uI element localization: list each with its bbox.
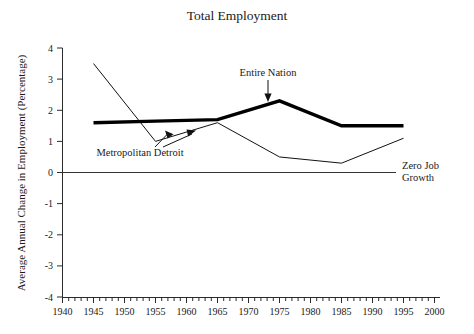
x-tick-label: 2000 xyxy=(425,306,445,317)
total-employment-line-chart: Total Employment Average Annual Change i… xyxy=(0,0,474,334)
y-tick-label: -3 xyxy=(45,260,53,271)
y-tick-label: 4 xyxy=(48,43,53,54)
y-tick-label: -2 xyxy=(45,229,53,240)
annotation-zero-job-growth: Zero Job Growth xyxy=(402,160,439,183)
y-tick-label: 2 xyxy=(48,105,53,116)
x-tick-label: 1970 xyxy=(239,306,259,317)
x-tick-label: 1955 xyxy=(146,306,166,317)
y-tick-label: -1 xyxy=(45,198,53,209)
annotation-label-entire-nation: Entire Nation xyxy=(240,67,298,78)
x-tick-label: 1940 xyxy=(53,306,73,317)
x-tick-label: 1945 xyxy=(84,306,104,317)
x-tick-label: 1985 xyxy=(332,306,352,317)
x-tick-label: 1960 xyxy=(177,306,197,317)
x-tick-label: 1965 xyxy=(208,306,228,317)
x-tick-label: 1980 xyxy=(301,306,321,317)
annotation-label-zero-job-growth-line1: Zero Job xyxy=(402,160,439,171)
annotation-label-zero-job-growth-line2: Growth xyxy=(402,172,435,183)
x-tick-label: 1995 xyxy=(394,306,414,317)
y-tick-label: -4 xyxy=(45,292,53,303)
chart-title: Total Employment xyxy=(187,8,288,23)
x-tick-label: 1975 xyxy=(270,306,290,317)
y-tick-label: 3 xyxy=(48,74,53,85)
chart-figure: Total Employment Average Annual Change i… xyxy=(0,0,474,334)
x-tick-label: 1990 xyxy=(363,306,383,317)
x-tick-label: 1950 xyxy=(115,306,135,317)
annotation-label-metropolitan-detroit: Metropolitan Detroit xyxy=(96,147,183,158)
y-axis-title: Average Annual Change in Employment (Per… xyxy=(15,54,28,291)
y-tick-label: 0 xyxy=(48,167,53,178)
y-tick-label: 1 xyxy=(48,136,53,147)
